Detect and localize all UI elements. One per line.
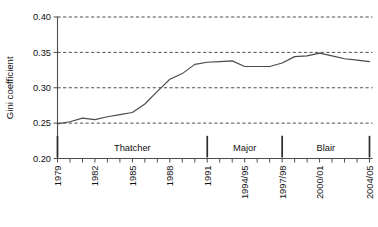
gini-coefficient-line-chart: 0.200.250.300.350.40 1979198219851988199… [0,0,378,227]
x-tick-label: 1991 [203,166,213,187]
era-label-blair: Blair [317,143,336,153]
gini-data-line [58,53,370,124]
x-tick-label: 1988 [165,166,175,187]
x-tick-label: 1979 [53,166,63,187]
era-label-major: Major [233,143,256,153]
x-tick-label: 1997/98 [278,166,288,200]
y-tick-label: 0.35 [33,48,51,58]
y-axis-title: Gini coefficient [4,56,15,119]
y-tick-label: 0.20 [33,154,51,164]
x-tick-labels: 197919821985198819911994/951997/982000/0… [53,166,375,200]
y-tick-label: 0.40 [33,12,51,22]
y-tick-label: 0.25 [33,118,51,128]
x-tick-label: 1994/95 [240,166,250,200]
gridlines-group [58,17,373,123]
y-tick-label: 0.30 [33,83,51,93]
y-tick-labels: 0.200.250.300.350.40 [33,12,51,164]
x-tick-label: 2004/05 [365,166,375,200]
x-tick-label: 1982 [90,166,100,187]
x-tick-group [58,159,370,163]
x-tick-label: 1985 [128,166,138,187]
era-label-group: ThatcherMajorBlair [114,143,335,153]
chart-canvas: 0.200.250.300.350.40 1979198219851988199… [0,0,378,227]
era-label-thatcher: Thatcher [114,143,151,153]
x-tick-label: 2000/01 [315,166,325,200]
